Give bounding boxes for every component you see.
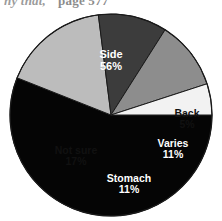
running-head-text: ny that,page 577 — [4, 0, 108, 9]
pie-chart-figure: ny that,page 577 Side 56% Back 5% Varies… — [0, 0, 222, 221]
pie-chart-graphic — [0, 0, 222, 221]
running-head-strip: ny that,page 577 — [0, 0, 222, 13]
page-number: page 577 — [58, 0, 108, 8]
running-head-label: ny that, — [4, 0, 46, 8]
